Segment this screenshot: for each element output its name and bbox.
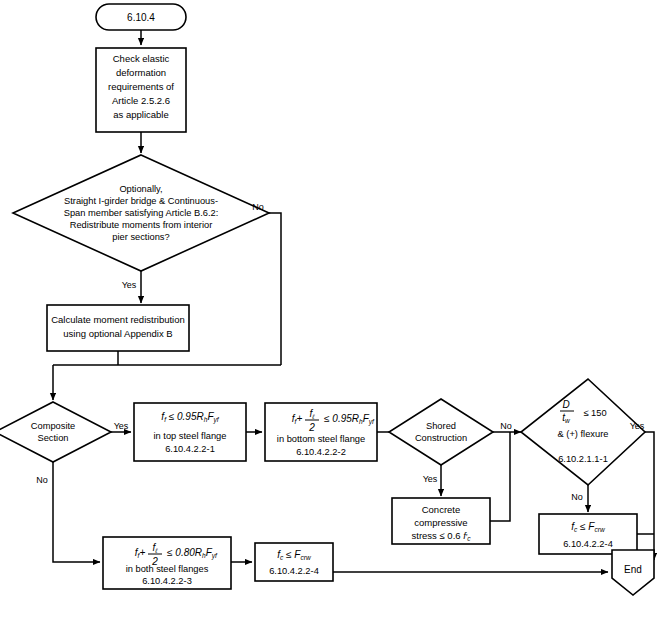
- web-slenderness-reference: 6.10.2.1.1-1: [558, 454, 608, 464]
- label-composite-no: No: [36, 475, 48, 485]
- shored-construction-node: Shored Construction: [389, 399, 493, 465]
- check-elastic-node: Check elastic deformation requirements o…: [96, 48, 186, 132]
- composite-section-shape: [0, 402, 111, 462]
- web-slenderness-limit: ≤ 150: [583, 408, 606, 418]
- composite-section-node: Composite Section: [0, 402, 111, 462]
- check-elastic-line-1: Check elastic: [113, 53, 170, 64]
- concrete-stress-line-3: stress ≤ 0.6 f′c: [412, 530, 472, 542]
- both-flanges-reference: 6.10.4.2.2-3: [142, 576, 192, 586]
- fc-check-bottom-node: fc ≤ Fcrw 6.10.4.2.2-4: [255, 543, 333, 581]
- label-composite-yes: Yes: [114, 421, 129, 431]
- flowchart-canvas: 6.10.4 Check elastic deformation require…: [0, 0, 664, 620]
- web-slenderness-line-2: & (+) flexure: [558, 429, 609, 439]
- redistribute-decision-line-1: Optionally,: [119, 184, 162, 194]
- top-flange-line-2: in top steel flange: [154, 431, 227, 441]
- connector-redistribute-no: [269, 213, 281, 365]
- label-shored-no: No: [500, 421, 512, 431]
- check-elastic-line-5: as applicable: [113, 109, 168, 120]
- fc-check-right-node: fc ≤ Fcrw 6.10.4.2.2-4: [539, 514, 637, 554]
- web-slenderness-node: D tw ≤ 150 & (+) flexure 6.10.2.1.1-1: [521, 379, 645, 485]
- connector-composite-no: [53, 462, 100, 562]
- top-flange-check-node: ff ≤ 0.95RhFyf in top steel flange 6.10.…: [134, 403, 246, 461]
- calc-redistribution-line-1: Calculate moment redistribution: [51, 314, 185, 325]
- start-node-label: 6.10.4: [127, 12, 155, 23]
- end-node-label: End: [624, 564, 642, 575]
- redistribute-decision-node: Optionally, Straight I-girder bridge & C…: [13, 155, 269, 271]
- bottom-caption-strip: [0, 608, 664, 620]
- fc-check-right-reference: 6.10.4.2.2-4: [563, 539, 613, 549]
- label-shored-yes: Yes: [423, 474, 438, 484]
- fc-check-bottom-reference: 6.10.4.2.2-4: [269, 566, 319, 576]
- composite-section-line-1: Composite: [31, 421, 75, 431]
- check-elastic-line-2: deformation: [116, 67, 166, 78]
- start-node: 6.10.4: [96, 4, 186, 30]
- bottom-flange-line-2: in bottom steel flange: [277, 434, 365, 444]
- bottom-flange-frac-den: 2: [308, 422, 315, 433]
- both-flanges-check-node: ff+ fℓ 2 ≤ 0.80RhFyf in both steel flang…: [103, 537, 231, 589]
- concrete-stress-node: Concrete compressive stress ≤ 0.6 f′c: [392, 498, 490, 544]
- bottom-flange-reference: 6.10.4.2.2-2: [296, 447, 346, 457]
- shored-construction-line-1: Shored: [426, 421, 456, 431]
- redistribute-decision-line-3: Span member satisfying Article B.6.2:: [64, 208, 219, 218]
- redistribute-decision-line-5: pier sections?: [112, 232, 169, 242]
- redistribute-decision-line-4: Redistribute moments from interior: [70, 220, 213, 230]
- flowchart-container: 6.10.4 Check elastic deformation require…: [0, 0, 664, 620]
- web-slenderness-num: D: [562, 399, 569, 410]
- check-elastic-line-3: requirements of: [108, 81, 174, 92]
- label-redistribute-yes: Yes: [122, 280, 137, 290]
- connector-web-yes: [645, 432, 654, 560]
- end-node: End: [612, 550, 654, 595]
- shored-construction-line-2: Construction: [415, 433, 467, 443]
- redistribute-decision-line-2: Straight I-girder bridge & Continuous-: [64, 196, 218, 206]
- concrete-stress-line-2: compressive: [414, 517, 467, 528]
- both-flanges-formula-lead: ff+: [135, 547, 146, 559]
- composite-section-line-2: Section: [37, 433, 68, 443]
- concrete-stress-line-1: Concrete: [422, 504, 461, 515]
- calc-redistribution-line-2: using optional Appendix B: [63, 328, 172, 339]
- bottom-flange-check-node: ff+ fℓ 2 ≤ 0.95RhFyf in bottom steel fla…: [265, 403, 377, 461]
- both-flanges-line-2: in both steel flanges: [126, 564, 209, 574]
- connector-concrete-to-web: [490, 432, 510, 521]
- top-flange-reference: 6.10.4.2.2-1: [165, 444, 215, 454]
- shored-construction-shape: [389, 399, 493, 465]
- calc-redistribution-node: Calculate moment redistribution using op…: [47, 305, 189, 351]
- bottom-flange-formula-lead: ff+: [292, 413, 303, 425]
- label-redistribute-no: No: [252, 202, 264, 212]
- check-elastic-line-4: Article 2.5.2.6: [112, 95, 170, 106]
- label-web-no: No: [571, 492, 583, 502]
- label-web-yes: Yes: [630, 421, 645, 431]
